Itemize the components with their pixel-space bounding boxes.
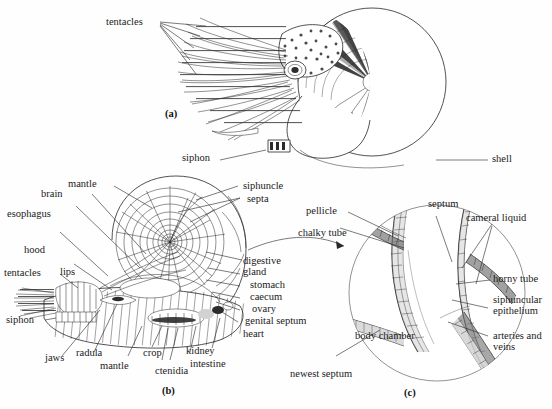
label-radula: radula	[76, 347, 102, 358]
nautilus-anatomy-figure: tentacles siphon shell (a) mantle brain …	[0, 0, 552, 409]
label-chalky-tube: chalky tube	[298, 227, 347, 238]
nautilus-siphon-b	[56, 312, 96, 322]
label-esophagus: esophagus	[7, 208, 51, 219]
ctenidia-organ	[152, 317, 196, 323]
nautilus-siphon-a	[268, 140, 290, 152]
label-arteries-and-veins: arteries and veins	[493, 330, 547, 353]
label-body-chamber: body chamber	[355, 330, 415, 341]
label-horny-tube: horny tube	[493, 273, 538, 284]
label-siphuncular-epithelium: siphuncular epithelium	[493, 294, 549, 317]
label-heart: heart	[243, 328, 264, 339]
label-ctenidia: ctenidia	[155, 365, 188, 376]
label-septa: septa	[247, 193, 269, 204]
label-ovary: ovary	[252, 303, 276, 314]
label-shell: shell	[492, 153, 512, 164]
label-lips: lips	[60, 266, 75, 277]
label-siphon-b: siphon	[6, 314, 34, 325]
detail-connector-arrow	[248, 237, 344, 250]
label-siphuncle: siphuncle	[243, 180, 283, 191]
label-jaws: jaws	[45, 352, 64, 363]
label-kidney: kidney	[186, 345, 215, 356]
panel-c-artwork	[336, 196, 525, 381]
label-brain: brain	[41, 188, 63, 199]
stomach-organ	[120, 278, 180, 298]
label-hood: hood	[24, 244, 45, 255]
label-crop: crop	[143, 347, 162, 358]
label-cameral-liquid: cameral liquid	[466, 212, 526, 223]
label-mantle-bottom: mantle	[100, 360, 129, 371]
label-genital-septum: genital septum	[245, 315, 307, 326]
panel-b-artwork	[14, 176, 246, 348]
label-tentacles-a: tentacles	[106, 16, 143, 27]
label-newest-septum: newest septum	[290, 368, 352, 379]
radula-organ	[112, 297, 124, 301]
label-stomach: stomach	[250, 279, 285, 290]
label-tentacles-b: tentacles	[4, 267, 41, 278]
label-digestive-gland: digestive gland	[243, 255, 299, 278]
label-septum: septum	[428, 198, 458, 209]
panel-a-artwork	[178, 8, 447, 168]
label-mantle-top: mantle	[68, 178, 97, 189]
panel-caption-c: (c)	[404, 387, 416, 398]
panel-caption-b: (b)	[162, 385, 175, 396]
label-siphon-a: siphon	[182, 152, 210, 163]
free-tentacle	[212, 128, 258, 135]
panel-caption-a: (a)	[165, 108, 177, 119]
label-intestine: intestine	[190, 358, 226, 369]
label-pellicle: pellicle	[306, 205, 337, 216]
label-caecum: caecum	[250, 291, 282, 302]
